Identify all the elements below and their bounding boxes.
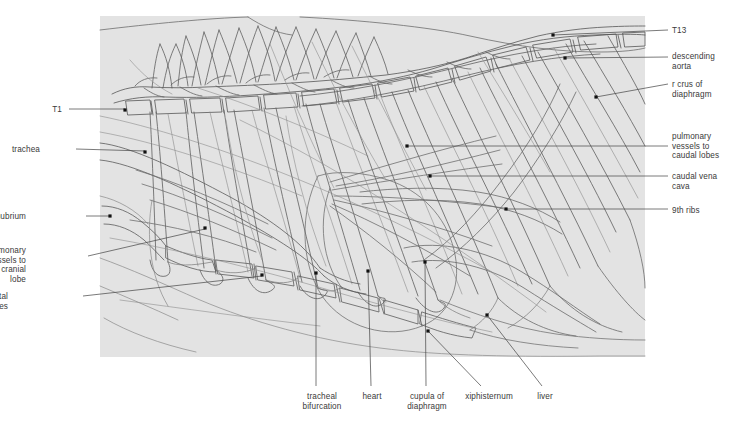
label-pulmonary-caudal: pulmonary vessels to caudal lobes	[672, 132, 719, 161]
anchor-dot-cupula-diaphragm	[423, 260, 426, 263]
label-manubrium: manubrium	[0, 212, 26, 222]
anchor-dot-xiphisternum	[426, 329, 429, 332]
label-costal-cartilages: costal cartilages	[0, 292, 8, 311]
thorax-anatomy-figure	[0, 0, 730, 423]
label-caudal-vena-cava: caudal vena cava	[672, 172, 717, 191]
anchor-dot-t13	[551, 33, 554, 36]
anchor-dot-pulmonary-cranial	[203, 226, 206, 229]
label-t1: T1	[52, 105, 62, 115]
label-liver: liver	[485, 392, 605, 402]
anchor-dot-9th-ribs	[504, 207, 507, 210]
anchor-dot-trachea	[143, 150, 146, 153]
anchor-dot-descending-aorta	[563, 56, 566, 59]
anchor-dot-liver	[485, 313, 488, 316]
label-descending-aorta: descending aorta	[672, 52, 715, 71]
anchor-dot-heart	[366, 269, 369, 272]
label-r-crus-diaphragm: r crus of diaphragm	[672, 80, 712, 99]
anchor-dot-manubrium	[108, 214, 111, 217]
anchor-dot-pulmonary-caudal	[405, 144, 408, 147]
anchor-dot-tracheal-bifurcation	[314, 271, 317, 274]
anchor-dot-t1	[123, 108, 126, 111]
anchor-dot-costal-cartilages	[260, 273, 263, 276]
anchor-dot-caudal-vena-cava	[428, 174, 431, 177]
label-9th-ribs: 9th ribs	[672, 206, 700, 216]
label-t13: T13	[672, 26, 686, 36]
label-trachea: trachea	[12, 145, 40, 155]
label-pulmonary-cranial: pulmonary vessels to cranial lobe	[0, 246, 26, 284]
anchor-dot-r-crus-diaphragm	[594, 95, 597, 98]
